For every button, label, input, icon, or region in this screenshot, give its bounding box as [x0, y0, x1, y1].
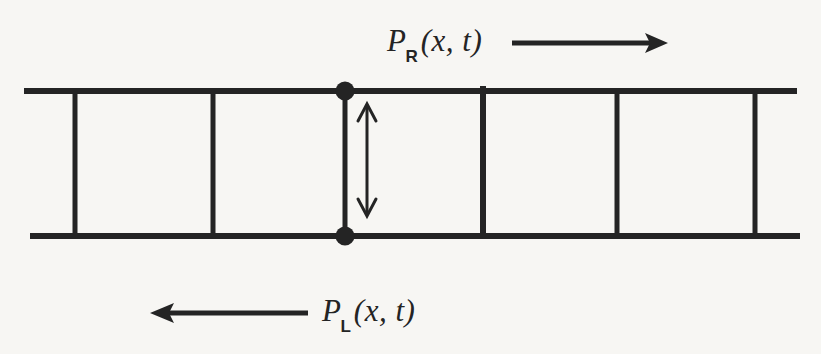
label-p-left-arguments: (x, t): [352, 293, 416, 328]
double-headed-arrow: [358, 104, 376, 216]
label-p-right-subscript: R: [405, 47, 417, 66]
label-p-right-symbol: P: [387, 23, 406, 58]
label-p-right-arguments: (x, t): [419, 23, 483, 58]
label-p-right: PR(x, t): [387, 25, 482, 61]
node-dot-bottom: [336, 227, 355, 246]
left-direction-arrow: [150, 303, 308, 323]
node-dot-top: [336, 82, 355, 101]
figure-canvas: PR(x, t) PL(x, t): [0, 0, 821, 354]
label-p-left-subscript: L: [340, 317, 350, 336]
right-direction-arrow: [512, 33, 668, 53]
label-p-left-symbol: P: [322, 293, 341, 328]
label-p-left: PL(x, t): [322, 295, 415, 331]
